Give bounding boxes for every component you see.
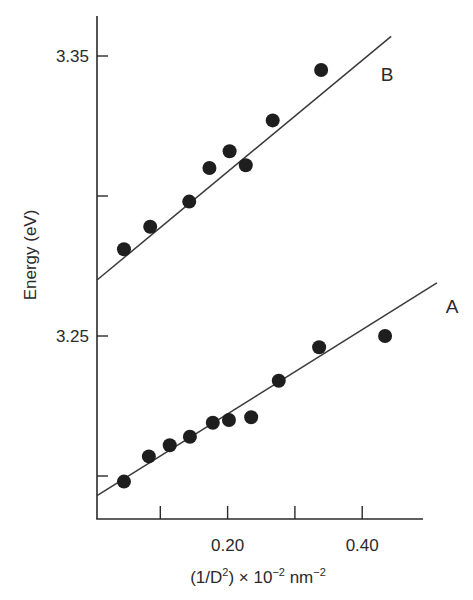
data-point-b — [223, 144, 237, 158]
data-point-b — [314, 63, 328, 77]
data-point-a — [206, 416, 220, 430]
axes: 3.253.350.200.40 — [56, 16, 423, 555]
energy-vs-inverse-size-chart: 3.253.350.200.40 Energy (eV) (1/D2) × 10… — [0, 0, 473, 600]
series-label-b: B — [381, 64, 394, 85]
data-point-b — [182, 195, 196, 209]
data-point-b — [202, 161, 216, 175]
data-point-a — [183, 430, 197, 444]
data-point-a — [244, 410, 258, 424]
y-tick-label: 3.35 — [56, 47, 89, 66]
y-axis-title: Energy (eV) — [21, 210, 40, 301]
data-point-a — [378, 329, 392, 343]
fit-line-a — [97, 283, 437, 496]
data-markers — [117, 63, 392, 489]
data-point-b — [117, 242, 131, 256]
data-point-a — [142, 449, 156, 463]
labels: Energy (eV) (1/D2) × 10−2 nm−2 BA — [21, 64, 459, 587]
x-axis-title: (1/D2) × 10−2 nm−2 — [190, 566, 326, 587]
data-point-a — [117, 475, 131, 489]
fit-lines — [97, 36, 437, 495]
x-tick-label: 0.40 — [346, 536, 379, 555]
data-point-a — [163, 438, 177, 452]
data-point-b — [266, 113, 280, 127]
data-point-b — [143, 220, 157, 234]
data-point-a — [222, 413, 236, 427]
x-tick-label: 0.20 — [211, 536, 244, 555]
y-tick-label: 3.25 — [56, 327, 89, 346]
data-point-a — [272, 374, 286, 388]
data-point-b — [239, 158, 253, 172]
fit-line-b — [97, 36, 391, 280]
data-point-a — [312, 340, 326, 354]
series-label-a: A — [446, 296, 459, 317]
